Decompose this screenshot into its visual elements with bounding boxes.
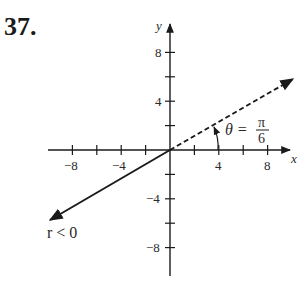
theta-label: θ = π 6 bbox=[225, 115, 269, 146]
y-tick-label-8: 8 bbox=[155, 45, 162, 60]
x-tick-label-neg8: −8 bbox=[64, 158, 78, 173]
r-negative-label: r < 0 bbox=[47, 224, 77, 241]
x-tick-label-neg4: −4 bbox=[112, 158, 126, 173]
x-axis-label: x bbox=[290, 151, 297, 166]
y-tick-label-neg4: −4 bbox=[146, 191, 160, 206]
x-tick-label-8: 8 bbox=[264, 158, 271, 173]
y-axis-label: y bbox=[154, 18, 162, 33]
x-tick-label-4: 4 bbox=[215, 158, 222, 173]
y-axis: 8 4 −4 −8 y bbox=[146, 18, 175, 276]
y-tick-label-neg8: −8 bbox=[146, 240, 160, 255]
angle-arc-icon bbox=[214, 127, 218, 150]
y-tick-label-4: 4 bbox=[155, 94, 162, 109]
theta-numerator: π bbox=[258, 115, 265, 130]
theta-denominator: 6 bbox=[258, 131, 265, 146]
dashed-ray-theta bbox=[170, 79, 293, 150]
theta-prefix: θ = bbox=[225, 121, 248, 138]
polar-coordinate-graph: −8 −4 4 8 x 8 4 −4 −8 y θ = π 6 bbox=[0, 0, 301, 281]
